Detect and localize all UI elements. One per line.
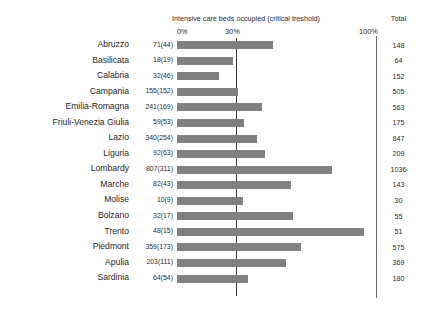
row-total-label: 1036: [376, 165, 421, 174]
row-value-label: 155(152): [129, 87, 173, 94]
bar: [177, 197, 243, 205]
bar-track: [177, 100, 376, 116]
bar-track: [177, 209, 376, 225]
row-total-label: 51: [376, 227, 421, 236]
chart-row: Lazio340(254)847: [0, 131, 421, 147]
bar: [177, 259, 286, 267]
row-total-label: 209: [376, 149, 421, 158]
row-region-label: Abruzzo: [0, 39, 129, 49]
bar: [177, 243, 301, 251]
row-value-label: 241(169): [129, 103, 173, 110]
chart-row: Piedmont359(173)575: [0, 240, 421, 256]
row-value-label: 92(63): [129, 149, 173, 156]
bar: [177, 88, 238, 96]
row-value-label: 64(54): [129, 274, 173, 281]
bar-track: [177, 162, 376, 178]
chart-row: Marche82(43)143: [0, 178, 421, 194]
row-region-label: Apulia: [0, 257, 129, 267]
row-total-label: 175: [376, 118, 421, 127]
chart-row: Apulia203(111)369: [0, 256, 421, 272]
chart-row: Basilicata18(19)64: [0, 54, 421, 70]
row-value-label: 203(111): [129, 258, 173, 265]
chart-title: Intensive care beds occupied (critical t…: [141, 14, 351, 23]
row-value-label: 32(46): [129, 72, 173, 79]
chart-row: Calabria32(46)152: [0, 69, 421, 85]
row-value-label: 18(19): [129, 56, 173, 63]
bar: [177, 150, 265, 158]
bar-track: [177, 178, 376, 194]
row-region-label: Sardinia: [0, 272, 129, 282]
bar-track: [177, 131, 376, 147]
bar: [177, 181, 291, 189]
chart-row: Liguria92(63)209: [0, 147, 421, 163]
row-region-label: Bolzano: [0, 210, 129, 220]
chart-row: Emilia-Romagna241(169)563: [0, 100, 421, 116]
bar-track: [177, 147, 376, 163]
chart-rows: Abruzzo71(44)148Basilicata18(19)64Calabr…: [0, 38, 421, 287]
bar-track: [177, 38, 376, 54]
row-value-label: 82(43): [129, 180, 173, 187]
bar-track: [177, 225, 376, 241]
row-region-label: Piedmont: [0, 241, 129, 251]
bar: [177, 41, 273, 49]
row-total-label: 64: [376, 56, 421, 65]
row-value-label: 48(15): [129, 227, 173, 234]
chart-row: Bolzano32(17)55: [0, 209, 421, 225]
row-total-label: 563: [376, 103, 421, 112]
x-axis-tick-0: 0%: [177, 27, 188, 36]
row-value-label: 340(254): [129, 134, 173, 141]
row-region-label: Marche: [0, 179, 129, 189]
row-value-label: 71(44): [129, 41, 173, 48]
row-total-label: 152: [376, 72, 421, 81]
bar: [177, 212, 293, 220]
chart-row: Abruzzo71(44)148: [0, 38, 421, 54]
bar: [177, 72, 219, 80]
row-region-label: Trento: [0, 226, 129, 236]
bar-track: [177, 240, 376, 256]
row-region-label: Molise: [0, 194, 129, 204]
bar-track: [177, 116, 376, 132]
x-axis-tick-100: 100%: [359, 27, 378, 36]
row-total-label: 55: [376, 212, 421, 221]
bar: [177, 57, 233, 65]
row-region-label: Basilicata: [0, 55, 129, 65]
row-region-label: Lazio: [0, 132, 129, 142]
row-region-label: Emilia-Romagna: [0, 101, 129, 111]
bar-track: [177, 271, 376, 287]
row-total-label: 575: [376, 243, 421, 252]
row-region-label: Friuli-Venezia Giulia: [0, 117, 129, 127]
bar: [177, 135, 257, 143]
row-value-label: 807(311): [129, 165, 173, 172]
bar: [177, 103, 262, 111]
row-total-label: 148: [376, 41, 421, 50]
chart-row: Sardinia64(54)180: [0, 271, 421, 287]
row-value-label: 59(53): [129, 118, 173, 125]
bar: [177, 228, 364, 236]
chart-row: Campania155(152)505: [0, 85, 421, 101]
row-total-label: 143: [376, 180, 421, 189]
bar: [177, 119, 244, 127]
row-region-label: Liguria: [0, 148, 129, 158]
chart-container: Intensive care beds occupied (critical t…: [0, 0, 421, 309]
bar-track: [177, 69, 376, 85]
chart-row: Molise10(9)30: [0, 193, 421, 209]
row-region-label: Calabria: [0, 70, 129, 80]
chart-row: Trento48(15)51: [0, 225, 421, 241]
x-axis-tick-30: 30%: [225, 27, 240, 36]
bar: [177, 166, 332, 174]
row-total-label: 847: [376, 134, 421, 143]
row-total-label: 30: [376, 196, 421, 205]
row-region-label: Campania: [0, 86, 129, 96]
row-value-label: 359(173): [129, 243, 173, 250]
bar-track: [177, 54, 376, 70]
row-total-label: 505: [376, 87, 421, 96]
row-region-label: Lombardy: [0, 163, 129, 173]
row-value-label: 32(17): [129, 212, 173, 219]
bar: [177, 275, 248, 283]
row-value-label: 10(9): [129, 196, 173, 203]
bar-track: [177, 193, 376, 209]
total-column-header: Total: [376, 14, 421, 23]
bar-track: [177, 256, 376, 272]
chart-row: Friuli-Venezia Giulia59(53)175: [0, 116, 421, 132]
row-total-label: 369: [376, 258, 421, 267]
